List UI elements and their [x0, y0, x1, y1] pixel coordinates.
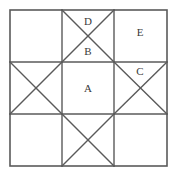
geometric-diagram-svg: DBEAC [0, 0, 176, 180]
region-label-e: E [137, 26, 144, 38]
region-label-d: D [84, 15, 92, 27]
region-label-b: B [84, 45, 91, 57]
region-label-c: C [136, 65, 143, 77]
figure-container: DBEAC [0, 0, 176, 180]
region-label-a: A [84, 82, 92, 94]
